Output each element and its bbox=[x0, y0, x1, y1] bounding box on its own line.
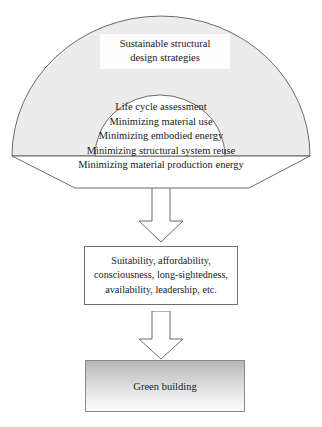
strategy-item-2: Minimizing material use bbox=[0, 115, 322, 130]
strategy-list: Life cycle assessment Minimizing materia… bbox=[0, 100, 322, 173]
qualities-line-3: availability, leadership, etc. bbox=[94, 283, 228, 298]
outcome-box: Green building bbox=[85, 360, 245, 412]
strategy-item-4: Minimizing structural system reuse bbox=[0, 144, 322, 159]
outcome-label: Green building bbox=[133, 381, 196, 392]
arrow-strategies-to-qualities-icon bbox=[131, 188, 191, 244]
title-line-1: Sustainable structural bbox=[104, 37, 226, 51]
strategy-item-1: Life cycle assessment bbox=[0, 100, 322, 115]
arrow-qualities-to-outcome-icon bbox=[131, 311, 191, 361]
qualities-line-1: Suitability, affordability, bbox=[94, 254, 228, 269]
strategy-item-3: Minimizing embodied energy bbox=[0, 129, 322, 144]
qualities-line-2: consciousness, long-sightedness, bbox=[94, 268, 228, 283]
title-box: Sustainable structural design strategies bbox=[100, 34, 230, 69]
diagram-canvas: Sustainable structural design strategies… bbox=[0, 0, 322, 427]
strategy-item-5: Minimizing material production energy bbox=[0, 158, 322, 173]
qualities-box: Suitability, affordability, consciousnes… bbox=[84, 246, 238, 305]
title-line-2: design strategies bbox=[104, 51, 226, 65]
